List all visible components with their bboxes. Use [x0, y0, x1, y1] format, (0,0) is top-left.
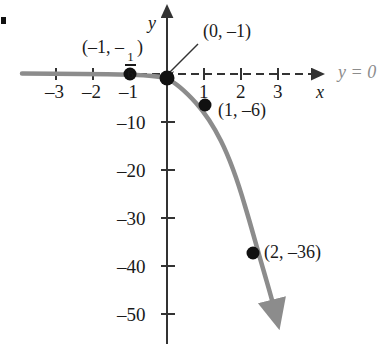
data-point-2: [247, 247, 260, 260]
y-axis-label: y: [148, 14, 156, 32]
point-label-2: (2, –36): [264, 243, 321, 261]
exponential-function-graph-figure: y x y = 0 –3 –2 –1 1 2 3 –10 –20 –30 –40…: [0, 0, 390, 349]
point-label-neg1-prefix: (–1, –: [82, 37, 124, 57]
x-tick-label-1: 1: [199, 82, 209, 101]
asymptote-label: y = 0: [338, 63, 376, 81]
y-tick-label-minus20: –20: [117, 161, 146, 180]
x-tick-label-3: 3: [273, 82, 283, 101]
fraction-one-sixth: 16: [125, 50, 136, 80]
fraction-numerator: 1: [125, 50, 136, 64]
x-tick-label-2: 2: [236, 82, 246, 101]
point-label-0: (0, –1): [203, 22, 251, 40]
graph-canvas: [0, 0, 390, 349]
x-tick-label-minus2: –2: [82, 82, 101, 101]
x-tick-label-minus3: –3: [45, 82, 64, 101]
point-label-neg1-suffix: ): [137, 37, 143, 57]
point-label-neg1: (–1, –16): [82, 38, 143, 80]
y-tick-label-minus50: –50: [117, 305, 146, 324]
point-label-1: (1, –6): [218, 101, 266, 119]
y-tick-label-minus40: –40: [117, 257, 146, 276]
x-axis-label: x: [316, 83, 324, 101]
fraction-denominator: 6: [125, 66, 136, 80]
x-tick-label-minus1: –1: [119, 82, 138, 101]
y-tick-label-minus10: –10: [117, 113, 146, 132]
y-tick-label-minus30: –30: [117, 209, 146, 228]
data-point-0: [160, 71, 175, 86]
